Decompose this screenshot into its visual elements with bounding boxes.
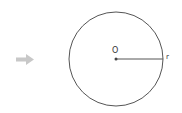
radius-label: r: [166, 54, 169, 61]
center-label: O: [112, 47, 118, 55]
center-point: [115, 58, 118, 61]
circle-diagram: [0, 0, 182, 113]
